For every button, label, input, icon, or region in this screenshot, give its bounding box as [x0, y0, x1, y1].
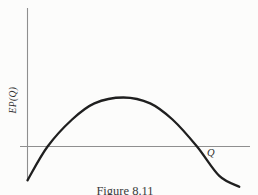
x-axis-label: Q: [207, 147, 215, 158]
figure-8-11: EP(Q) Q Figure 8.11: [0, 0, 258, 195]
profit-curve-path: [28, 98, 240, 187]
figure-caption: Figure 8.11: [96, 185, 153, 195]
y-axis-label: EP(Q): [8, 87, 18, 114]
chart-svg: [0, 0, 258, 195]
